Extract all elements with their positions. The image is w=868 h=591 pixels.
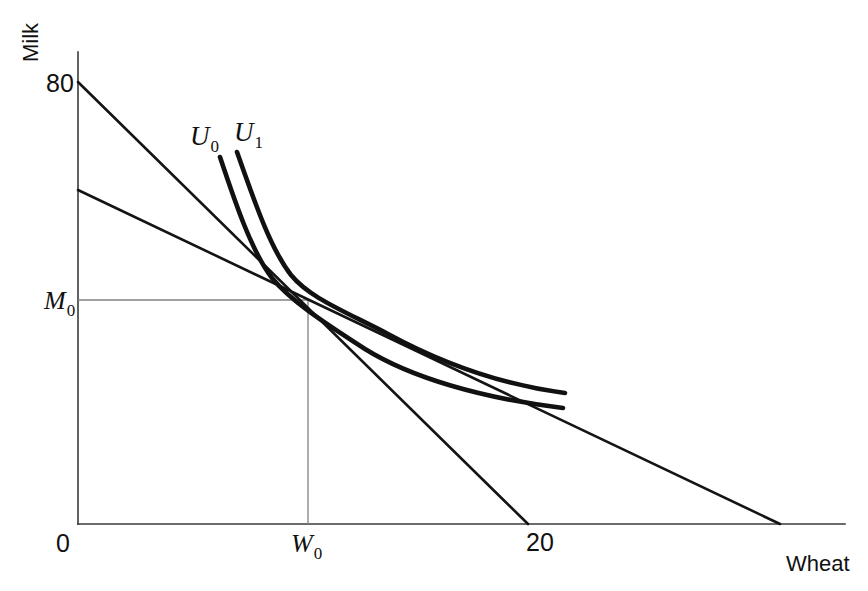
y-tick-label-m0: M0 — [43, 286, 75, 320]
budget-lines-group — [78, 82, 780, 524]
guide-lines-group — [78, 300, 308, 524]
axis-titles-group: Milk Wheat — [18, 22, 850, 576]
y-tick-label-m0-main: M — [43, 286, 67, 315]
curve-label-u1: U1 — [234, 117, 263, 152]
origin-label: 0 — [56, 529, 70, 557]
curve-label-u1-main: U — [234, 117, 255, 147]
y-axis-title: Milk — [18, 22, 43, 62]
x-axis-title: Wheat — [786, 551, 850, 576]
curve-labels-group: U0 U1 — [190, 117, 263, 156]
y-tick-label-m0-sub: 0 — [67, 301, 76, 320]
indifference-curves-group — [220, 152, 565, 408]
x-tick-label-w0-main: W — [291, 529, 315, 558]
budget-line-2 — [78, 190, 780, 524]
budget-line-1 — [78, 82, 528, 524]
curve-label-u1-sub: 1 — [255, 133, 264, 152]
curve-label-u0: U0 — [190, 121, 219, 156]
indifference-curve-chart: U0 U1 80 M0 0 W0 20 Milk Wheat — [0, 0, 868, 591]
x-tick-label-w0: W0 — [291, 529, 322, 563]
x-tick-label-20: 20 — [526, 528, 554, 556]
tick-labels-group: 80 M0 0 W0 20 — [43, 69, 554, 563]
indifference-curve-u1 — [237, 152, 565, 393]
x-tick-label-w0-sub: 0 — [314, 544, 323, 563]
chart-canvas: U0 U1 80 M0 0 W0 20 Milk Wheat — [0, 0, 868, 591]
curve-label-u0-main: U — [190, 121, 211, 151]
y-tick-label-80: 80 — [46, 69, 74, 97]
curve-label-u0-sub: 0 — [211, 137, 220, 156]
